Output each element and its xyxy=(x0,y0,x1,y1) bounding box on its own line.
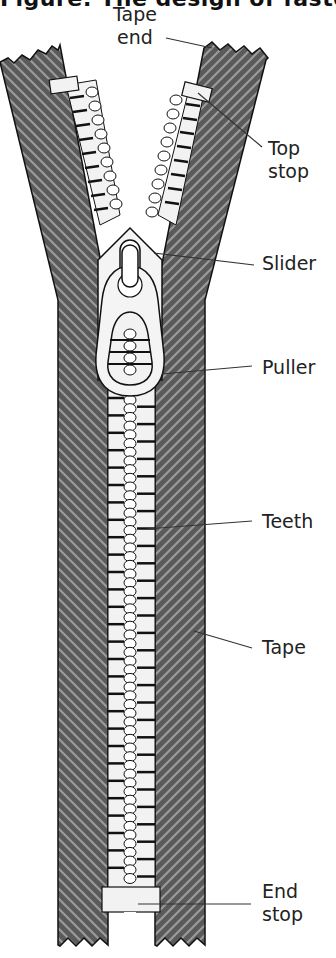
label-end-stop: End stop xyxy=(262,880,303,926)
label-line: stop xyxy=(268,160,309,183)
label-line: stop xyxy=(262,903,303,926)
end-stop xyxy=(102,887,160,912)
label-teeth: Teeth xyxy=(262,510,313,533)
label-puller: Puller xyxy=(262,356,315,379)
bottom-gap xyxy=(124,912,136,948)
label-top-stop: Top stop xyxy=(268,137,309,183)
label-line: End xyxy=(262,880,303,903)
label-tape-end: Tape end xyxy=(110,3,160,49)
label-line: Tape xyxy=(110,3,160,26)
label-slider: Slider xyxy=(262,252,316,275)
label-line: end xyxy=(110,26,160,49)
closed-teeth xyxy=(108,380,155,890)
label-tape: Tape xyxy=(262,636,306,659)
label-line: Top xyxy=(268,137,309,160)
